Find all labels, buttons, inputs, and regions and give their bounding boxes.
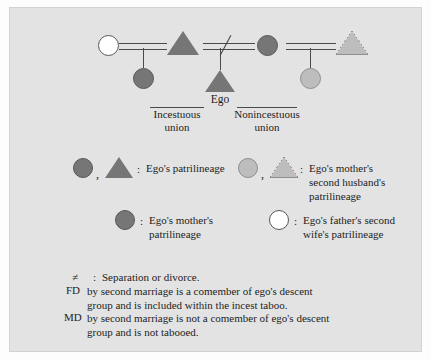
descent-line-ego — [220, 48, 221, 70]
legend-separator-2: , — [261, 167, 264, 182]
legend-colon-1: : — [137, 163, 140, 175]
descent-line-father-daughter — [143, 48, 144, 68]
legend-colon-3: : — [140, 215, 143, 227]
symbol-ego — [205, 70, 235, 92]
legend-label-mothers-patrilineage: Ego's mother's patrilineage — [149, 214, 241, 242]
legend-label-second-wife-patrilineage: Ego's father's second wife's patrilineag… — [303, 214, 399, 242]
note-colon-divorce: : — [93, 271, 96, 283]
symbol-mother — [257, 35, 278, 56]
note-tag-fd: FD — [66, 284, 80, 296]
note-text-md: by second marriage is not a comember of … — [87, 311, 337, 340]
legend-symbol-circle-dark-egos-patrilineage — [73, 158, 93, 178]
figure-panel: Ego Incestuous union Nonincestuous union… — [9, 7, 422, 352]
descent-line-mother-daughter — [310, 48, 311, 68]
ego-label: Ego — [211, 93, 230, 107]
legend-separator-1: , — [96, 167, 99, 182]
legend-symbol-circle-white-second-wife — [269, 210, 289, 230]
symbol-fathers-second-wife — [98, 35, 119, 56]
legend-symbol-circle-light-second-husband — [238, 158, 258, 178]
legend-symbol-circle-dark-mothers-patrilineage — [115, 210, 135, 230]
figure-root: Ego Incestuous union Nonincestuous union… — [0, 0, 431, 360]
note-text-divorce: Separation or divorce. — [102, 270, 352, 284]
symbol-father-daughter — [133, 68, 154, 89]
nonincestuous-union-label-line2: union — [254, 121, 279, 134]
legend-symbol-triangle-light-second-husband-outline — [270, 157, 298, 178]
legend-colon-4: : — [294, 215, 297, 227]
note-tag-divorce-icon: ≠ — [72, 271, 78, 283]
incestuous-union-label-line1: Incestuous — [153, 108, 200, 121]
symbol-mothers-second-husband-outline — [336, 31, 368, 55]
incestuous-union-label-line2: union — [164, 121, 189, 134]
legend-label-second-husband-patrilineage: Ego's mother's second husband's patrilin… — [309, 162, 401, 204]
note-tag-md: MD — [64, 311, 82, 323]
legend-colon-2: : — [300, 163, 303, 175]
marriage-line-mother-second-husband — [286, 43, 336, 50]
nonincestuous-union-label-line1: Nonincestuous — [234, 108, 299, 121]
legend-symbol-triangle-dark-egos-patrilineage — [105, 157, 133, 178]
symbol-father — [167, 31, 199, 55]
legend-label-egos-patrilineage: Ego's patrilineage — [146, 162, 236, 176]
note-text-fd: by second marriage is a comember of ego'… — [87, 284, 339, 313]
marriage-line-father-mother-divorced — [203, 43, 255, 50]
symbol-mother-daughter — [300, 68, 321, 89]
